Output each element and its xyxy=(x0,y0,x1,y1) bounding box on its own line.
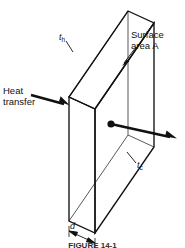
surface-area-label: Surfacearea A xyxy=(131,30,164,51)
temperature-cold-subscript: c xyxy=(140,164,143,171)
dim-arrow-left xyxy=(69,231,78,236)
heat-transfer-label: Heattransfer xyxy=(3,86,35,107)
t-cold-leader-line xyxy=(127,152,136,163)
heat-inflow-arrow xyxy=(31,95,70,106)
heat-transfer-slab-figure: Heattransfer Surfacearea A th tc d FIGUR… xyxy=(0,0,185,248)
surface-area-label-line1: Surface xyxy=(131,29,164,40)
heat-transfer-label-line2: transfer xyxy=(3,96,35,107)
top-face xyxy=(69,11,154,109)
hidden-edge-bottom-back xyxy=(128,135,154,147)
temperature-hot-subscript: h xyxy=(62,36,66,43)
heat-transfer-label-line1: Heat xyxy=(3,85,23,96)
hidden-edge-bottom-left-diagonal xyxy=(69,135,128,221)
thickness-label: d xyxy=(70,221,75,231)
heat-outflow-arrow xyxy=(107,120,177,138)
figure-caption: FIGURE 14-1 xyxy=(0,241,185,248)
temperature-cold-label: tc xyxy=(137,160,143,170)
front-hot-face xyxy=(69,97,95,233)
temperature-hot-label: th xyxy=(59,32,65,42)
t-hot-leader-line xyxy=(66,41,73,52)
surface-area-label-line2: area A xyxy=(131,40,158,51)
